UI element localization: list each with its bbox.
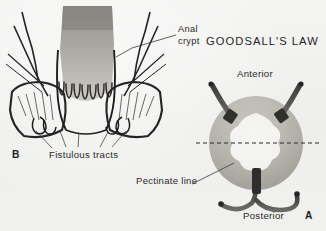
label-anal-crypt: Anal crypt (178, 24, 200, 47)
medical-figure: GOODSALL'S LAW Anal crypt Anterior Poste… (0, 0, 326, 231)
anal-crypt-line-1: Anal (178, 24, 198, 34)
panel-label-a: A (305, 210, 313, 221)
anterior-tract-openings (208, 81, 303, 86)
page-title: GOODSALL'S LAW (206, 35, 319, 48)
panel-label-b: B (12, 149, 20, 160)
label-anterior: Anterior (237, 69, 273, 80)
label-pectinate-line: Pectinate line (136, 176, 197, 187)
panel-a-ring-diagram (192, 81, 320, 210)
posterior-midline-opening (252, 168, 261, 194)
label-fistulous-tracts: Fistulous tracts (49, 150, 118, 161)
label-posterior: Posterior (243, 211, 284, 222)
anal-crypt-line-2: crypt (178, 36, 200, 46)
